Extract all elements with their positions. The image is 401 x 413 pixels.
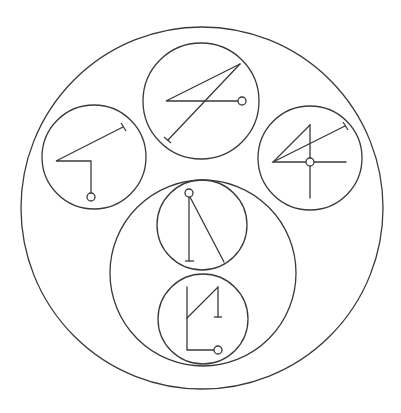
glyph-stroke: [190, 197, 224, 262]
lower-group-circle: [110, 180, 296, 366]
top-glyph: [164, 64, 246, 143]
node-circle-terminal: [185, 189, 193, 197]
node-circle-terminal: [214, 346, 222, 354]
glyph-stroke: [56, 127, 123, 193]
glyph-stroke: [187, 287, 218, 318]
lower-inner-glyph: [187, 287, 222, 354]
left-glyph: [56, 123, 126, 201]
circles-layer: [21, 27, 383, 389]
glyph-stroke: [273, 125, 310, 162]
outer-circle: [21, 27, 383, 389]
left-circle: [42, 105, 146, 209]
right-glyph: [273, 122, 348, 198]
glyph-stroke: [273, 126, 345, 162]
glyph-stroke: [168, 64, 240, 140]
upper-inner-circle: [157, 180, 247, 270]
glyph-stroke: [187, 287, 214, 350]
glyph-stroke: [166, 64, 240, 101]
node-circle-terminal: [238, 97, 246, 105]
circle-glyph-diagram: [0, 0, 401, 413]
diagram-canvas: [0, 0, 401, 413]
upper-inner-glyph: [185, 189, 224, 262]
node-circle-terminal: [306, 158, 314, 166]
node-circle-terminal: [87, 193, 95, 201]
